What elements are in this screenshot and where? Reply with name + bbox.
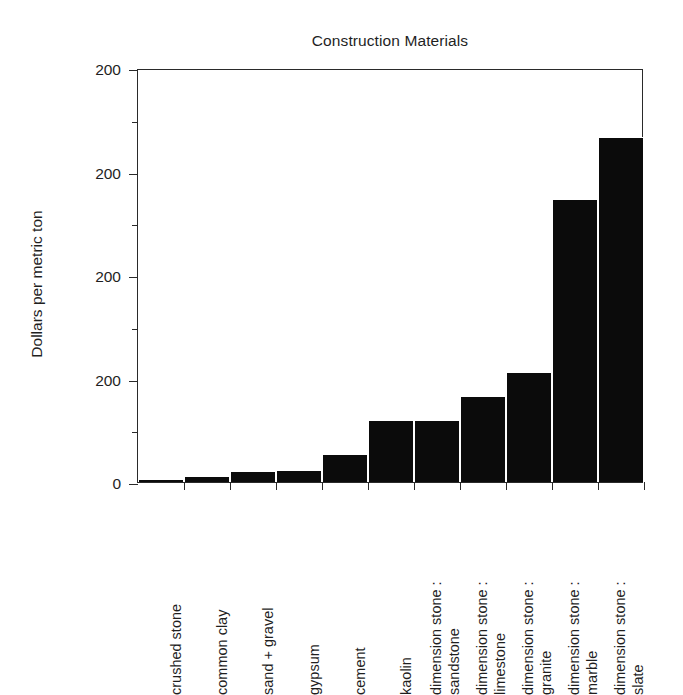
x-tick-label-line: marble [583, 495, 601, 695]
bar [184, 476, 230, 482]
x-tick [644, 482, 645, 490]
bar [552, 199, 598, 482]
x-tick-label-line: dimension stone : [611, 495, 629, 695]
x-tick [552, 482, 553, 490]
x-tick [276, 482, 277, 490]
y-tick-minor [132, 329, 138, 330]
bar [368, 420, 414, 482]
y-tick-label: 200 [61, 268, 121, 286]
bar [138, 479, 184, 482]
x-tick [414, 482, 415, 490]
x-tick-label-line: dimension stone : [519, 495, 537, 695]
bar [460, 396, 506, 482]
x-tick-label: dimension stone :marble [565, 495, 601, 695]
bar [322, 454, 368, 482]
y-tick-label: 200 [61, 165, 121, 183]
bar [230, 471, 276, 482]
y-tick-minor [132, 225, 138, 226]
x-tick-label-line: sandstone [445, 495, 463, 695]
x-tick-label-line: dimension stone : [565, 495, 583, 695]
x-tick-label-line: limestone [491, 495, 509, 695]
y-tick-major [129, 484, 138, 485]
x-tick-label: dimension stone :granite [519, 495, 555, 695]
plot-area: 2002002002000 [137, 69, 643, 483]
x-tick-label: cement [351, 495, 369, 695]
x-tick-label-line: dimension stone : [427, 495, 445, 695]
x-tick-label: sand + gravel [259, 495, 277, 695]
y-tick-major [129, 70, 138, 71]
bar [506, 372, 552, 482]
x-tick-label: crushed stone [167, 495, 185, 695]
x-tick [460, 482, 461, 490]
x-tick [230, 482, 231, 490]
y-tick-label: 0 [61, 475, 121, 493]
y-tick-label: 200 [61, 372, 121, 390]
bar [414, 420, 460, 482]
y-axis-title: Dollars per metric ton [28, 184, 46, 384]
chart-title: Construction Materials [137, 32, 643, 50]
y-tick-major [129, 277, 138, 278]
x-tick-label: common clay [213, 495, 231, 695]
x-tick-label: dimension stone :limestone [473, 495, 509, 695]
x-tick-label: gypsum [305, 495, 323, 695]
x-tick-label: dimension stone :sandstone [427, 495, 463, 695]
x-tick [598, 482, 599, 490]
x-tick-label: kaolin [397, 495, 415, 695]
x-tick [184, 482, 185, 490]
y-tick-major [129, 381, 138, 382]
x-tick [368, 482, 369, 490]
x-tick-label-line: granite [537, 495, 555, 695]
y-tick-minor [132, 432, 138, 433]
y-tick-label: 200 [61, 61, 121, 79]
x-tick [322, 482, 323, 490]
x-tick [506, 482, 507, 490]
y-tick-major [129, 174, 138, 175]
x-tick-label-line: slate [629, 495, 647, 695]
bar [598, 137, 644, 482]
x-tick-label-line: dimension stone : [473, 495, 491, 695]
x-tick-label: dimension stone :slate [611, 495, 647, 695]
bar [276, 470, 322, 482]
y-tick-minor [132, 122, 138, 123]
